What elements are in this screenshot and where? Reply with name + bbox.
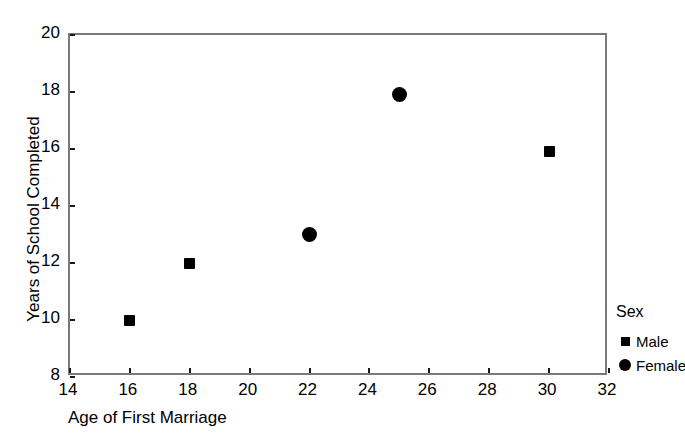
- legend-title: Sex: [616, 303, 685, 321]
- y-tick: [70, 148, 75, 150]
- x-tick-label: 16: [108, 380, 148, 399]
- data-point-female: [302, 227, 317, 242]
- legend-entry-male[interactable]: Male: [616, 331, 685, 351]
- x-tick: [249, 368, 251, 373]
- x-tick: [488, 368, 490, 373]
- x-tick-label: 20: [228, 380, 268, 399]
- x-axis-title: Age of First Marriage: [68, 408, 227, 428]
- x-tick: [309, 368, 311, 373]
- y-axis-title: Years of School Completed: [24, 79, 44, 359]
- legend: Sex MaleFemale: [616, 303, 685, 379]
- circle-marker-icon: [616, 359, 634, 371]
- x-tick-label: 28: [467, 380, 507, 399]
- data-point-male: [544, 146, 555, 157]
- legend-entry-female[interactable]: Female: [616, 355, 685, 375]
- x-tick: [608, 368, 610, 373]
- x-tick-label: 24: [347, 380, 387, 399]
- legend-entry-label: Female: [634, 357, 685, 374]
- y-tick-label: 8: [20, 365, 60, 384]
- data-point-male: [184, 258, 195, 269]
- data-point-male: [124, 315, 135, 326]
- y-tick: [70, 319, 75, 321]
- x-tick-label: 22: [288, 380, 328, 399]
- x-tick: [428, 368, 430, 373]
- scatter-plot-figure: 14161820222426283032 8101214161820 Age o…: [0, 0, 685, 437]
- x-tick: [129, 368, 131, 373]
- x-tick-label: 30: [527, 380, 567, 399]
- x-tick-label: 32: [587, 380, 627, 399]
- y-tick: [70, 376, 75, 378]
- y-tick: [70, 205, 75, 207]
- x-tick: [189, 368, 191, 373]
- legend-entries: MaleFemale: [616, 331, 685, 375]
- y-tick: [70, 91, 75, 93]
- square-marker-icon: [616, 337, 634, 346]
- x-tick: [548, 368, 550, 373]
- x-tick-label: 26: [407, 380, 447, 399]
- x-tick: [368, 368, 370, 373]
- x-tick: [69, 368, 71, 373]
- data-point-female: [392, 87, 407, 102]
- x-tick-label: 18: [168, 380, 208, 399]
- y-tick: [70, 262, 75, 264]
- legend-entry-label: Male: [634, 333, 669, 350]
- y-tick: [70, 34, 75, 36]
- plot-area: [68, 33, 607, 375]
- y-tick-label: 20: [20, 23, 60, 42]
